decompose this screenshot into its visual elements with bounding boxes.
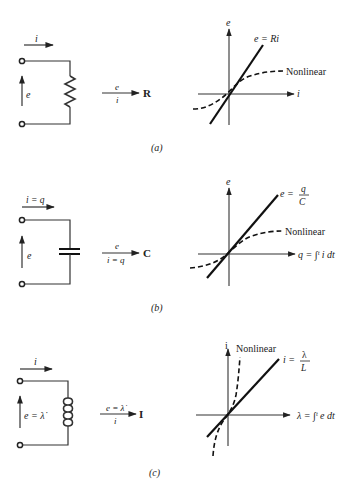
mapping-denominator: i <box>114 416 117 426</box>
mapping-arrow: e i R <box>102 82 152 105</box>
nonlinear-label: Nonlinear <box>236 343 277 354</box>
current-label: i <box>35 33 38 44</box>
x-axis-label: i <box>297 88 300 99</box>
voltage-label: e <box>27 250 32 261</box>
linear-curve <box>207 195 278 278</box>
linear-label-prefix: i = <box>283 354 295 365</box>
mapping-denominator: i <box>116 95 119 105</box>
resistor-graph: e i e = Ri Nonlinear <box>193 17 327 125</box>
capacitor-graph: e q = ∫ᵗ i dt e = q C Nonlinear <box>190 176 335 286</box>
mapping-arrow: e i = q C <box>102 241 151 265</box>
terminal-top <box>19 58 24 63</box>
voltage-label: e <box>26 89 31 100</box>
panel-c: i e = λ̇ e = λ̇ i I (c) i λ = ∫ᵗ e dt i … <box>17 340 335 479</box>
panel-a: i e e i R (a) e i e = Ri Nonlinear <box>19 17 326 154</box>
capacitor-circuit: i = q e <box>19 195 80 287</box>
panel-b: i = q e e i = q C (b) e q = ∫ᵗ i dt e = … <box>19 176 335 314</box>
linear-label-denominator: L <box>300 363 306 373</box>
mapping-result: R <box>143 87 152 99</box>
inductor-icon <box>64 398 73 426</box>
mapping-numerator: e <box>115 82 119 92</box>
y-axis-label: e <box>226 176 231 187</box>
inductor-graph: i λ = ∫ᵗ e dt i = λ L Nonlinear <box>196 340 335 456</box>
figure-canvas: i e e i R (a) e i e = Ri Nonlinear <box>0 0 358 483</box>
linear-label-denominator: C <box>299 197 306 207</box>
wire <box>25 107 70 124</box>
y-axis-label: i <box>225 340 228 351</box>
terminal-bottom <box>19 121 24 126</box>
wire <box>25 61 70 76</box>
linear-label-numerator: λ <box>302 350 307 360</box>
nonlinear-label: Nonlinear <box>285 226 326 237</box>
terminal-bottom <box>19 281 24 286</box>
linear-label: e = Ri <box>254 33 279 44</box>
x-axis-label: λ = ∫ᵗ e dt <box>296 410 335 422</box>
mapping-arrow: e = λ̇ i I <box>100 403 143 426</box>
current-label: i = q <box>26 195 45 205</box>
resistor-icon <box>65 76 75 107</box>
mapping-numerator: e <box>115 241 119 251</box>
terminal-bottom <box>17 442 22 447</box>
voltage-label: e = λ̇ <box>24 410 48 421</box>
panel-caption: (a) <box>151 142 163 154</box>
wire <box>25 254 70 284</box>
panel-caption: (b) <box>151 302 163 314</box>
terminal-top <box>19 217 24 222</box>
nonlinear-curve <box>190 231 282 268</box>
nonlinear-curve <box>193 71 283 109</box>
linear-label-prefix: e = <box>280 188 294 199</box>
wire <box>23 381 68 398</box>
nonlinear-label: Nonlinear <box>286 66 327 77</box>
y-axis-label: e <box>226 17 231 28</box>
wire <box>23 426 68 445</box>
panel-caption: (c) <box>149 467 161 479</box>
wire <box>25 220 70 249</box>
mapping-numerator: e = λ̇ <box>106 403 127 413</box>
terminal-top <box>17 378 22 383</box>
linear-curve <box>207 359 279 437</box>
current-label: i <box>34 356 37 367</box>
mapping-result: C <box>143 247 151 259</box>
mapping-denominator: i = q <box>107 255 125 265</box>
resistor-circuit: i e <box>19 33 75 127</box>
mapping-result: I <box>139 408 143 420</box>
inductor-circuit: i e = λ̇ <box>17 356 72 448</box>
linear-label-numerator: q <box>301 184 306 194</box>
x-axis-label: q = ∫ᵗ i dt <box>298 249 335 261</box>
